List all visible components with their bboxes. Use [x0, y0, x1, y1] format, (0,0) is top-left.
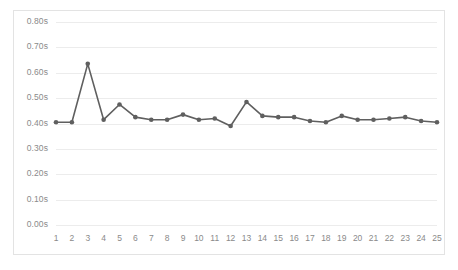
data-point: [292, 115, 297, 120]
series-line: [56, 64, 437, 126]
data-point: [133, 115, 138, 120]
line-chart: 0.00s0.10s0.20s0.30s0.40s0.50s0.60s0.70s…: [0, 0, 458, 270]
data-point: [260, 114, 265, 119]
data-point: [355, 117, 360, 122]
data-point: [387, 116, 392, 121]
data-point: [212, 116, 217, 121]
data-point: [117, 102, 122, 107]
data-point: [419, 119, 424, 124]
data-point: [101, 117, 106, 122]
series-line-group: [0, 0, 458, 270]
data-point: [244, 100, 249, 105]
data-point: [165, 117, 170, 122]
data-point: [228, 124, 233, 129]
data-point: [54, 120, 59, 125]
data-point: [70, 120, 75, 125]
data-point: [403, 115, 408, 120]
data-point: [85, 62, 90, 67]
data-point: [276, 115, 281, 120]
data-point: [435, 120, 440, 125]
data-point: [149, 117, 154, 122]
data-point: [197, 117, 202, 122]
data-point: [308, 119, 313, 124]
data-point: [181, 112, 186, 117]
data-point: [339, 114, 344, 119]
data-point: [371, 117, 376, 122]
data-point: [324, 120, 329, 125]
